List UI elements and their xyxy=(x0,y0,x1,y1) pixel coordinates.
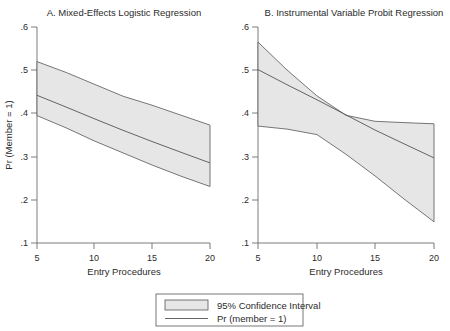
y-tick-a-6: .6 xyxy=(20,22,28,32)
y-tick-a-1: .1 xyxy=(20,238,28,248)
legend-ci-swatch xyxy=(165,300,208,310)
y-tick-a-3: .3 xyxy=(20,152,28,162)
y-tick-b-3: .3 xyxy=(241,152,249,162)
legend-line-label: Pr (member = 1) xyxy=(217,313,286,324)
regression-figure: A. Mixed-Effects Logistic Regression .6 … xyxy=(0,0,450,331)
y-tick-a-2: .2 xyxy=(20,195,28,205)
x-tick-b-20: 20 xyxy=(429,253,439,263)
y-axis-title: Pr (Member = 1) xyxy=(3,100,14,169)
x-tick-a-5: 5 xyxy=(34,253,39,263)
panel-a-title: A. Mixed-Effects Logistic Regression xyxy=(47,7,202,18)
y-tick-b-2: .2 xyxy=(241,195,249,205)
panel-b-title: B. Instrumental Variable Probit Regressi… xyxy=(265,7,444,18)
panel-b-x-axis-title: Entry Procedures xyxy=(309,266,383,277)
legend-ci-label: 95% Confidence Interval xyxy=(217,300,321,311)
x-tick-a-10: 10 xyxy=(89,253,99,263)
y-tick-a-5: .5 xyxy=(20,65,28,75)
panel-a-x-axis-title: Entry Procedures xyxy=(87,266,161,277)
y-tick-b-1: .1 xyxy=(241,238,249,248)
x-tick-b-10: 10 xyxy=(312,253,322,263)
x-tick-a-20: 20 xyxy=(205,253,215,263)
x-tick-b-15: 15 xyxy=(370,253,380,263)
y-tick-b-5: .5 xyxy=(241,65,249,75)
y-tick-b-6: .6 xyxy=(241,22,249,32)
x-tick-b-5: 5 xyxy=(255,253,260,263)
y-tick-a-4: .4 xyxy=(20,108,28,118)
x-tick-a-15: 15 xyxy=(147,253,157,263)
y-tick-b-4: .4 xyxy=(241,108,249,118)
